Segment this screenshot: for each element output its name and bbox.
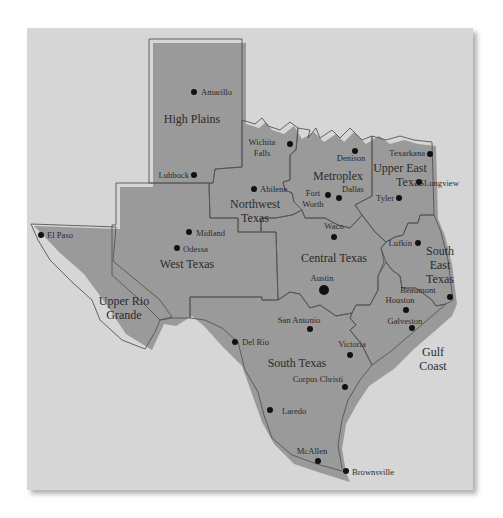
city-dot-icon [191,172,197,178]
svg-text:Beaumont: Beaumont [400,285,436,295]
region-label-central-texas: Central Texas [301,251,367,265]
region-label-south-east-texas-2: East [430,258,451,272]
svg-text:San Antonio: San Antonio [278,315,321,325]
svg-text:Dallas: Dallas [342,184,365,194]
city-dot-icon [251,186,257,192]
svg-text:Galveston: Galveston [388,316,424,326]
city-dot-icon [191,89,197,95]
region-label-gulf-coast-1: Gulf [422,345,444,359]
svg-text:Victoria: Victoria [338,339,366,349]
svg-text:El Paso: El Paso [47,230,73,240]
texas-regions-map: High Plains Northwest Texas Metroplex Up… [0,0,503,518]
svg-text:Lubbock: Lubbock [158,170,189,180]
svg-text:Amarillo: Amarillo [201,87,232,97]
city-dot-icon [307,326,313,332]
svg-text:Del Rio: Del Rio [242,337,269,347]
city-dot-icon [447,294,453,300]
city-dot-icon [427,151,433,157]
svg-text:Abilene: Abilene [260,184,287,194]
svg-text:Austin: Austin [311,273,335,283]
city-dot-icon [416,179,422,185]
city-dot-icon [336,195,342,201]
capital-dot-icon [319,285,329,295]
svg-text:Falls: Falls [254,148,271,158]
city-dot-icon [415,240,421,246]
svg-text:Midland: Midland [196,228,226,238]
city-dot-icon [331,234,337,240]
svg-text:Corpus Christi: Corpus Christi [293,374,344,384]
region-label-south-east-texas-3: Texas [426,272,454,286]
region-label-south-east-texas-1: South [426,244,454,258]
svg-text:Texarkana: Texarkana [389,148,425,158]
city-dot-icon [325,192,331,198]
region-label-northwest-texas-2: Texas [241,211,269,225]
city-dot-icon [186,229,192,235]
svg-text:Waco: Waco [324,221,343,231]
region-label-metroplex: Metroplex [313,169,363,183]
svg-text:Lufkin: Lufkin [389,238,413,248]
region-label-gulf-coast-2: Coast [419,359,447,373]
city-dot-icon [232,339,238,345]
region-label-west-texas: West Texas [160,257,215,271]
city-dot-icon [287,141,293,147]
svg-text:Denison: Denison [337,153,366,163]
svg-text:Longview: Longview [424,178,460,188]
city-dot-icon [403,307,409,313]
city-dot-icon [267,407,273,413]
svg-text:Houston: Houston [385,295,415,305]
region-label-upper-rio-grande-2: Grande [106,308,141,322]
region-label-upper-east-texas-1: Upper East [373,161,427,175]
city-dot-icon [38,232,44,238]
svg-text:McAllen: McAllen [297,446,328,456]
city-dot-icon [174,245,180,251]
region-label-high-plains: High Plains [164,112,221,126]
city-dot-icon [315,458,321,464]
svg-text:Wichita: Wichita [249,137,276,147]
svg-text:Brownsville: Brownsville [352,467,394,477]
city-dot-icon [342,384,348,390]
svg-text:Odessa: Odessa [183,244,208,254]
svg-text:Fort: Fort [306,188,321,198]
svg-text:Tyler: Tyler [376,193,394,203]
city-dot-icon [343,468,349,474]
svg-text:Laredo: Laredo [282,406,306,416]
city-dot-icon [396,195,402,201]
svg-text:Worth: Worth [302,199,324,209]
city-dot-icon [347,352,353,358]
region-label-northwest-texas-1: Northwest [230,197,281,211]
region-label-upper-rio-grande-1: Upper Rio [99,294,149,308]
region-label-south-texas: South Texas [268,356,327,370]
